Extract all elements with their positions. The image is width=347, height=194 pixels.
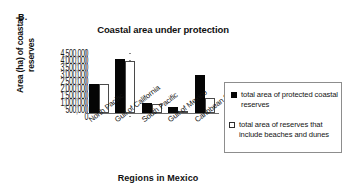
bar-group	[142, 50, 162, 113]
legend-entry-beaches-and-dunes: total area of reserves that include beac…	[229, 120, 341, 139]
x-axis-title: Regions in Mexico	[78, 173, 238, 183]
bar-beaches-and-dunes	[178, 111, 188, 113]
bar-group	[195, 50, 215, 113]
legend-line-1: total area of protected	[241, 90, 313, 99]
chart-title: Coastal area under protection	[78, 24, 248, 35]
bar-protected-reserves	[89, 84, 99, 113]
open-square-icon	[229, 122, 235, 128]
legend-line-1: total area of reserves	[239, 120, 308, 129]
plot-area	[86, 50, 218, 113]
legend-label-beaches-and-dunes: total area of reserves that include beac…	[239, 120, 341, 139]
bar-group	[168, 50, 188, 113]
bar-beaches-and-dunes	[125, 61, 135, 113]
chart-legend: total area of protected coastal reserves…	[224, 82, 342, 153]
bar-group	[89, 50, 109, 113]
bar-protected-reserves	[168, 107, 178, 113]
filled-square-icon	[231, 92, 237, 98]
y-axis-title: Area (ha) of coastal reserves	[15, 10, 41, 100]
bar-protected-reserves	[115, 59, 125, 113]
bar-group	[115, 50, 135, 113]
x-axis-line	[86, 113, 219, 114]
y-tick-label: 0	[44, 111, 88, 122]
bar-protected-reserves	[195, 75, 205, 113]
bar-protected-reserves	[142, 103, 152, 113]
y-axis-tick-labels: 4,500,0004,000,0003,500,0003,000,0002,50…	[44, 44, 88, 116]
y-tick-mark	[129, 116, 131, 117]
bar-beaches-and-dunes	[152, 104, 162, 113]
legend-label-protected-reserves: total area of protected coastal reserves	[241, 90, 339, 109]
bar-beaches-and-dunes	[99, 84, 109, 113]
legend-line-3: and dunes	[294, 130, 329, 139]
legend-entry-protected-reserves: total area of protected coastal reserves	[231, 90, 339, 109]
bar-beaches-and-dunes	[205, 98, 215, 113]
